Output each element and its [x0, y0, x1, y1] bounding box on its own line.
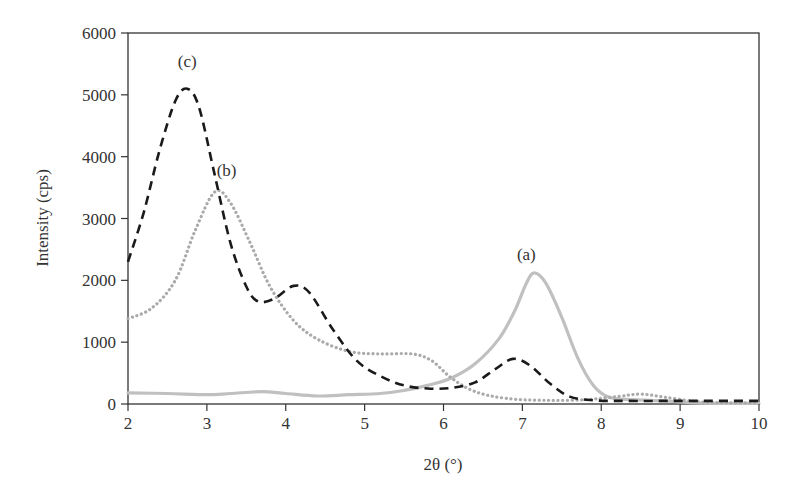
x-tick-label: 8 [597, 414, 606, 433]
series-line-b [128, 190, 759, 402]
y-tick-label: 2000 [82, 271, 116, 290]
series-line-a [128, 273, 759, 404]
curve-label: (c) [178, 52, 197, 71]
x-tick-label: 2 [124, 414, 133, 433]
y-tick-label: 4000 [82, 148, 116, 167]
x-tick-label: 3 [203, 414, 212, 433]
plot-border [128, 33, 759, 404]
series-line-c [128, 88, 759, 400]
xrd-chart: 23456789100100020003000400050006000 (c)(… [0, 0, 788, 501]
curve-label: (a) [517, 245, 536, 264]
y-tick-label: 3000 [82, 210, 116, 229]
curve-label: (b) [217, 161, 237, 180]
y-tick-label: 5000 [82, 86, 116, 105]
x-tick-label: 7 [518, 414, 527, 433]
y-axis-label: Intensity (cps) [33, 169, 52, 267]
y-tick-label: 6000 [82, 24, 116, 43]
x-tick-label: 9 [676, 414, 685, 433]
annotations: (c)(b)(a) [178, 52, 536, 264]
plot-frame [128, 33, 759, 404]
axis-ticks: 23456789100100020003000400050006000 [82, 24, 768, 433]
x-tick-label: 4 [282, 414, 291, 433]
x-axis-label: 2θ (°) [423, 455, 462, 474]
x-tick-label: 10 [751, 414, 768, 433]
x-tick-label: 6 [439, 414, 448, 433]
series-layer [128, 88, 759, 403]
y-tick-label: 1000 [82, 333, 116, 352]
x-tick-label: 5 [360, 414, 369, 433]
y-tick-label: 0 [108, 395, 117, 414]
